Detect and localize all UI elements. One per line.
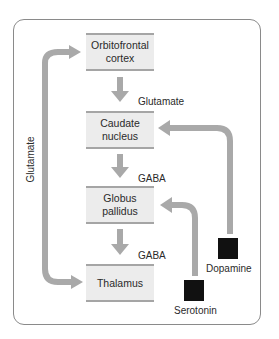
- node-orbitofrontal-cortex: Orbitofrontalcortex: [86, 33, 154, 71]
- node-label-line: Orbitofrontal: [91, 39, 149, 51]
- arrow-thalamus-to-orbitofrontal: [45, 52, 72, 282]
- dopamine-source: [218, 238, 238, 259]
- label-dopamine: Dopamine: [206, 263, 252, 274]
- node-label-line: Caudate: [100, 117, 140, 129]
- node-label-line: pallidus: [102, 205, 138, 217]
- serotonin-source: [184, 280, 204, 301]
- label-serotonin: Serotonin: [174, 305, 217, 316]
- node-globus-pallidus: Globuspallidus: [86, 186, 154, 224]
- edge-label-glutamate-loop: Glutamate: [25, 137, 36, 183]
- node-label-line: Globus: [103, 192, 136, 204]
- node-label-line: nucleus: [102, 130, 138, 142]
- arrow-serotonin-to-globus: [170, 205, 195, 276]
- node-label-line: Thalamus: [97, 277, 143, 290]
- edge-label-gaba-2: GABA: [138, 250, 166, 261]
- node-label-line: cortex: [106, 52, 135, 64]
- node-thalamus: Thalamus: [86, 264, 154, 302]
- edge-label-gaba-1: GABA: [138, 173, 166, 184]
- node-caudate-nucleus: Caudatenucleus: [86, 111, 154, 149]
- arrow-dopamine-to-caudate: [168, 128, 230, 234]
- edge-label-glutamate: Glutamate: [138, 96, 184, 107]
